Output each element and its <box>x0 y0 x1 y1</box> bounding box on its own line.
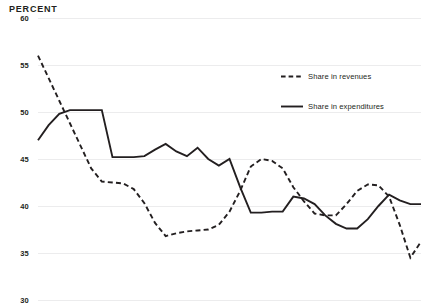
y-axis-tick-label: 35 <box>0 249 29 258</box>
chart-legend: Share in revenuesShare in expenditures <box>281 72 384 132</box>
legend-item[interactable]: Share in expenditures <box>281 102 384 111</box>
legend-label: Share in revenues <box>308 72 371 81</box>
series-lines <box>38 18 421 300</box>
legend-swatch-icon <box>281 102 303 111</box>
y-axis-tick-label: 40 <box>0 202 29 211</box>
y-axis-tick-label: 55 <box>0 61 29 70</box>
y-axis-tick-label: 50 <box>0 108 29 117</box>
plot-area <box>38 18 421 300</box>
y-axis-title: PERCENT <box>9 4 58 14</box>
y-axis-tick-label: 30 <box>0 296 29 305</box>
gridline <box>38 300 421 301</box>
legend-item[interactable]: Share in revenues <box>281 72 384 81</box>
y-axis-tick-label: 60 <box>0 14 29 23</box>
legend-label: Share in expenditures <box>308 102 384 111</box>
y-axis-tick-label: 45 <box>0 155 29 164</box>
legend-swatch-icon <box>281 72 303 81</box>
